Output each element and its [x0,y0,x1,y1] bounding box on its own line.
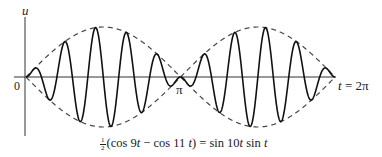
origin-label: 0 [14,80,20,92]
beat-plot [0,0,382,157]
figure-caption: 12(cos 9t − cos 11 t) = sin 10t sin t [100,137,267,152]
t-end-label: t = 2π [338,79,369,92]
one-half-fraction: 12 [100,137,106,152]
t-end-value: = 2π [342,78,369,93]
pi-tick-label: π [176,83,183,96]
beat-wave-curve [26,28,335,127]
u-axis-label: u [22,4,29,17]
